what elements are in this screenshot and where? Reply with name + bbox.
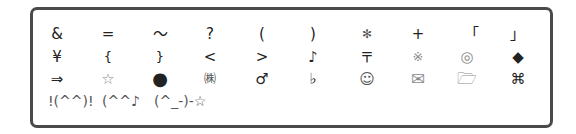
symbol-close-paren[interactable]: ) [293, 24, 333, 44]
symbol-envelope[interactable]: ✉ [398, 69, 438, 89]
symbol-flat-sign[interactable]: ♭ [293, 69, 333, 89]
symbol-corner-bracket-open[interactable]: 「 [451, 24, 491, 44]
symbol-bullseye[interactable]: ◎ [447, 47, 487, 67]
symbol-postal-mark[interactable]: 〒 [347, 47, 387, 67]
kaomoji-wink-star[interactable]: (^_-)-☆ [154, 91, 206, 111]
symbol-corner-bracket-close[interactable]: 」 [497, 24, 537, 44]
symbol-reference-mark[interactable]: ※ [398, 47, 438, 67]
symbol-ampersand[interactable]: & [37, 24, 77, 44]
symbol-plus[interactable]: + [398, 24, 438, 44]
kaomoji-music[interactable]: (^^♪ [102, 91, 140, 111]
symbol-yen[interactable]: ¥ [37, 47, 77, 67]
symbol-black-diamond[interactable]: ◆ [498, 47, 538, 67]
symbol-greater-than[interactable]: > [242, 47, 282, 67]
symbol-black-circle[interactable]: ● [140, 69, 180, 89]
symbol-asterisk[interactable]: ✻ [347, 24, 387, 44]
symbol-open-brace[interactable]: { [88, 47, 128, 67]
symbol-open-paren[interactable]: ( [242, 24, 282, 44]
symbol-wave-dash[interactable]: 〜 [140, 24, 180, 44]
symbol-command-key[interactable]: ⌘ [498, 69, 538, 89]
symbol-kabushiki-gaisha[interactable]: ㈱ [190, 69, 230, 89]
symbol-male-sign[interactable]: ♂ [242, 69, 282, 89]
symbol-close-brace[interactable]: } [140, 47, 180, 67]
symbol-less-than[interactable]: < [190, 47, 230, 67]
kaomoji-cheer[interactable]: !(^^)! [48, 91, 94, 111]
symbol-folder[interactable]: 🗁 [447, 69, 487, 89]
symbol-double-right-arrow[interactable]: ⇒ [37, 69, 77, 89]
symbol-music-note[interactable]: ♪ [293, 47, 333, 67]
symbol-smiley[interactable]: ☺ [347, 69, 387, 89]
symbol-question-mark[interactable]: ? [190, 24, 230, 44]
symbol-white-star[interactable]: ☆ [88, 69, 128, 89]
symbol-equals[interactable]: = [88, 24, 128, 44]
